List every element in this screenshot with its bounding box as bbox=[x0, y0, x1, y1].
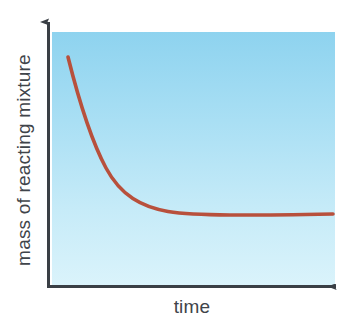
chart-figure: mass of reacting mixture time bbox=[0, 0, 354, 330]
plot-area-background bbox=[52, 32, 335, 285]
y-axis-label: mass of reacting mixture bbox=[13, 54, 34, 266]
chart-svg: mass of reacting mixture time bbox=[0, 0, 354, 330]
x-axis-label: time bbox=[174, 296, 211, 317]
